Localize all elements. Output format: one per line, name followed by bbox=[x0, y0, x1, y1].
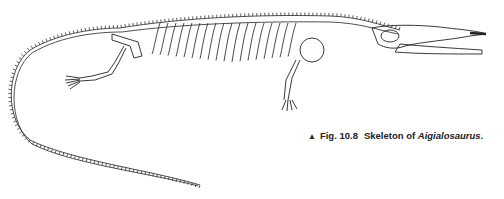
caption-genus: Aigialosaurus bbox=[418, 130, 481, 141]
vertebra-tick bbox=[102, 162, 103, 165]
rib bbox=[224, 23, 232, 61]
rib bbox=[264, 23, 272, 59]
skeleton-illustration bbox=[0, 0, 504, 199]
hind-limb bbox=[65, 34, 142, 89]
vertebra-tick bbox=[10, 81, 13, 82]
rib bbox=[272, 23, 280, 58]
vertebra-tick bbox=[94, 161, 95, 164]
vertebra-tick bbox=[36, 143, 37, 146]
vertebra-tick bbox=[372, 19, 373, 22]
vertebra-tick bbox=[364, 18, 365, 21]
vertebra-tick bbox=[54, 36, 55, 39]
caption-period: . bbox=[481, 130, 484, 141]
vertebra-tick bbox=[399, 27, 400, 30]
vertebra-tick bbox=[67, 154, 68, 157]
vertebra-tick bbox=[188, 182, 189, 185]
vertebra-tick bbox=[380, 22, 381, 25]
caption-text: Skeleton of bbox=[364, 130, 418, 141]
vertebra-tick bbox=[376, 21, 377, 24]
vertebra-tick bbox=[106, 163, 107, 166]
rib bbox=[184, 23, 192, 57]
vertebra-tick bbox=[98, 162, 99, 165]
vertebra-tick bbox=[61, 33, 62, 36]
vertebra-tick bbox=[384, 23, 385, 26]
vertebral-column-lower bbox=[14, 22, 398, 186]
vertebra-tick bbox=[82, 158, 83, 161]
vertebra-tick bbox=[199, 185, 200, 188]
vertebra-tick bbox=[31, 46, 32, 49]
vertebra-tick bbox=[71, 155, 72, 158]
vertebra-tick bbox=[50, 37, 51, 40]
vertebra-tick bbox=[39, 42, 40, 45]
rib bbox=[192, 23, 200, 58]
vertebra-tick bbox=[77, 30, 78, 33]
vertebra-tick bbox=[19, 131, 21, 133]
vertebra-tick bbox=[19, 58, 21, 60]
triangle-marker-icon: ▲ bbox=[308, 132, 316, 141]
vertebra-tick bbox=[63, 153, 64, 156]
vertebra-tick bbox=[73, 30, 74, 33]
vertebra-tick bbox=[361, 17, 362, 20]
vertebra-tick bbox=[35, 44, 36, 47]
vertebra-tick bbox=[192, 183, 193, 186]
rib bbox=[208, 23, 216, 60]
rib bbox=[280, 23, 288, 57]
vertebra-tick bbox=[118, 166, 119, 169]
vertebra-tick bbox=[79, 157, 80, 160]
vertebra-tick bbox=[90, 160, 91, 163]
ribs bbox=[152, 23, 296, 62]
vertebra-tick bbox=[13, 121, 16, 122]
vertebra-tick bbox=[81, 29, 82, 32]
vertebra-tick bbox=[10, 77, 13, 78]
vertebra-tick bbox=[110, 164, 111, 167]
vertebra-tick bbox=[122, 167, 123, 170]
rib bbox=[232, 23, 240, 62]
vertebra-tick bbox=[27, 48, 29, 50]
vertebra-tick bbox=[15, 125, 18, 126]
vertebra-tick bbox=[40, 145, 41, 148]
rib bbox=[176, 23, 184, 56]
rib bbox=[248, 23, 256, 60]
figure-number: Fig. 10.8 bbox=[320, 130, 358, 141]
vertebra-tick bbox=[46, 39, 47, 42]
vertebra-tick bbox=[59, 151, 60, 154]
vertebra-tick bbox=[10, 109, 13, 110]
vertebra-tick bbox=[55, 150, 56, 153]
vertebra-tick bbox=[86, 159, 87, 162]
vertebra-tick bbox=[51, 149, 52, 152]
vertebra-tick bbox=[180, 180, 181, 183]
skull bbox=[372, 25, 486, 54]
front-limb bbox=[282, 38, 324, 111]
vertebra-tick bbox=[11, 113, 14, 114]
vertebra-tick bbox=[357, 16, 358, 19]
vertebra-tick bbox=[69, 31, 70, 34]
vertebra-tick bbox=[368, 18, 369, 21]
vertebra-tick bbox=[15, 65, 18, 66]
vertebra-tick bbox=[17, 61, 20, 63]
vertebra-tick bbox=[395, 26, 396, 29]
vertebra-tick bbox=[42, 40, 43, 43]
rib bbox=[168, 23, 176, 56]
vertebra-tick bbox=[65, 32, 66, 35]
vertebra-tick bbox=[48, 148, 49, 151]
rib bbox=[240, 23, 248, 61]
vertebra-tick bbox=[24, 51, 26, 53]
rib bbox=[200, 23, 208, 59]
rib bbox=[256, 23, 264, 60]
vertebra-tick bbox=[58, 35, 59, 38]
vertebra-tick bbox=[13, 69, 16, 70]
vertebra-tick bbox=[184, 181, 185, 184]
figure-caption: ▲Fig. 10.8Skeleton of Aigialosaurus. bbox=[308, 130, 483, 141]
vertebra-tick bbox=[17, 128, 20, 130]
vertebra-tick bbox=[44, 146, 45, 149]
vertebral-column bbox=[11, 16, 400, 186]
rib bbox=[288, 23, 296, 56]
vertebra-tick bbox=[12, 73, 15, 74]
vertebra-tick bbox=[114, 165, 115, 168]
vertebra-tick bbox=[195, 184, 196, 187]
rib bbox=[216, 23, 224, 60]
vertebra-tick bbox=[21, 54, 23, 56]
vertebra-tick bbox=[75, 156, 76, 159]
vertebra-tick bbox=[12, 117, 15, 118]
